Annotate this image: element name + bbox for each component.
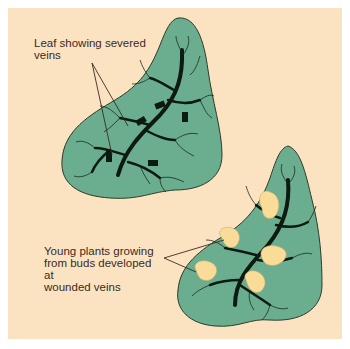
label-young-plants: Young plants growing from buds developed… — [44, 245, 164, 293]
label-severed-veins: Leaf showing severed veins — [34, 37, 154, 61]
